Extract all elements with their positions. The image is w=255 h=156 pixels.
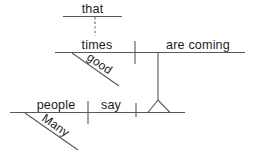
word-that: that	[82, 2, 104, 16]
word-are-coming: are coming	[166, 38, 230, 52]
word-say: say	[101, 98, 122, 112]
word-many: Many	[39, 111, 72, 140]
noun-clause-tripod-icon	[148, 100, 170, 113]
word-people: people	[37, 98, 76, 112]
word-good: good	[84, 50, 115, 77]
word-times: times	[82, 38, 113, 52]
sentence-diagram: that times are coming good people say Ma…	[0, 0, 255, 156]
diagram-canvas: that times are coming good people say Ma…	[0, 0, 255, 156]
